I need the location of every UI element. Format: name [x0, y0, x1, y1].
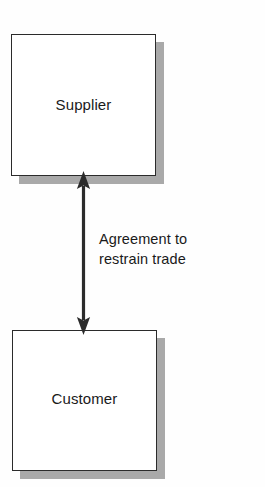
- supplier-box[interactable]: Supplier: [11, 34, 156, 176]
- edge-label-line-2: restrain trade: [99, 249, 249, 269]
- edge-label-line-1: Agreement to: [99, 229, 249, 249]
- edge-label: Agreement to restrain trade: [99, 229, 249, 269]
- supplier-box-label: Supplier: [12, 96, 155, 113]
- customer-box-label: Customer: [13, 390, 156, 407]
- diagram-canvas: Supplier Customer Agreement to restrain …: [0, 0, 265, 487]
- customer-box[interactable]: Customer: [12, 330, 157, 471]
